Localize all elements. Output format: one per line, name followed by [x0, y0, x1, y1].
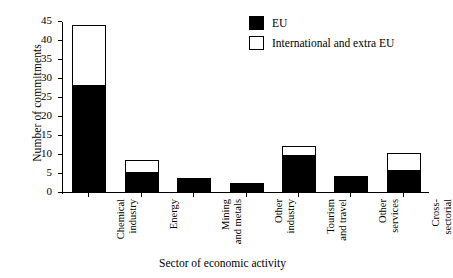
y-tick-mark [58, 116, 62, 117]
bar-segment-international [282, 146, 316, 156]
legend-label-international: International and extra EU [272, 37, 394, 49]
x-tick-mark [88, 193, 89, 197]
y-tick-mark [58, 40, 62, 41]
y-tick-label: 40 [41, 33, 52, 46]
bar-segment-international [387, 153, 421, 171]
x-category-label: Otherservices [377, 199, 400, 253]
legend-label-eu: EU [272, 17, 287, 29]
y-tick: 30 [58, 78, 62, 79]
y-tick-label: 5 [47, 166, 53, 179]
x-category-label: Energy [168, 199, 180, 253]
bar-segment-eu [230, 183, 264, 192]
y-tick-mark [58, 135, 62, 136]
y-tick-label: 10 [41, 147, 52, 160]
y-tick-mark [58, 78, 62, 79]
y-tick: 25 [58, 97, 62, 98]
y-tick-label: 45 [41, 14, 52, 27]
y-tick: 45 [58, 21, 62, 22]
x-category-label: Tourismand travel [325, 199, 348, 253]
legend-item-international: International and extra EU [249, 36, 394, 50]
bar-mining-and-metals [177, 178, 211, 192]
bar-segment-eu [72, 86, 106, 192]
x-category-label: Miningand metals [220, 199, 243, 253]
x-category-label: Otherindustry [273, 199, 296, 253]
legend-swatch-eu [249, 16, 264, 30]
y-tick-mark [58, 21, 62, 22]
bar-segment-international [125, 160, 159, 173]
y-tick: 40 [58, 40, 62, 41]
bar-chemical-industry [72, 25, 106, 192]
x-tick-mark [141, 193, 142, 197]
y-tick: 10 [58, 154, 62, 155]
y-tick: 35 [58, 59, 62, 60]
bar-segment-international [72, 25, 106, 86]
y-tick-label: 15 [41, 128, 52, 141]
y-tick-mark [58, 192, 62, 193]
x-tick-mark [298, 193, 299, 197]
y-tick-mark [58, 173, 62, 174]
y-tick-label: 0 [47, 185, 53, 198]
y-tick-mark [58, 97, 62, 98]
y-tick-label: 30 [41, 71, 52, 84]
x-tick-mark [246, 193, 247, 197]
bar-segment-eu [387, 171, 421, 192]
bar-segment-eu [177, 178, 211, 192]
x-category-label: Cross-sectorial [430, 199, 453, 253]
chart-legend: EU International and extra EU [249, 16, 394, 56]
x-tick-mark [403, 193, 404, 197]
bar-energy [125, 160, 159, 192]
bar-segment-eu [125, 173, 159, 192]
bar-other-industry [230, 183, 264, 192]
y-tick: 20 [58, 116, 62, 117]
bar-cross-sectorial [387, 153, 421, 192]
y-tick: 5 [58, 173, 62, 174]
x-tick-mark [193, 193, 194, 197]
y-tick-label: 20 [41, 109, 52, 122]
y-tick-label: 25 [41, 90, 52, 103]
bar-other-services [334, 176, 368, 192]
y-tick-mark [58, 59, 62, 60]
y-tick: 0 [58, 192, 62, 193]
bar-tourism-and-travel [282, 146, 316, 192]
bar-segment-eu [334, 176, 368, 192]
y-tick-mark [58, 154, 62, 155]
x-category-label: Chemicalindustry [115, 199, 138, 253]
legend-swatch-international [249, 36, 264, 50]
y-tick: 15 [58, 135, 62, 136]
bar-segment-eu [282, 156, 316, 192]
y-tick-label: 35 [41, 52, 52, 65]
x-tick-mark [350, 193, 351, 197]
legend-item-eu: EU [249, 16, 394, 30]
x-axis-title: Sector of economic activity [0, 257, 445, 269]
